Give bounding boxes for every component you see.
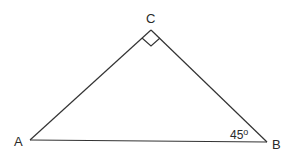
- vertex-label-c: C: [146, 11, 155, 26]
- vertex-label-b: B: [272, 137, 281, 152]
- angle-b-label: 45o: [230, 127, 248, 142]
- triangle-diagram: C A B 45o: [0, 0, 294, 157]
- right-angle-marker: [142, 38, 160, 46]
- side-cb: [151, 30, 267, 142]
- side-ca: [30, 30, 151, 140]
- vertex-label-a: A: [14, 134, 23, 149]
